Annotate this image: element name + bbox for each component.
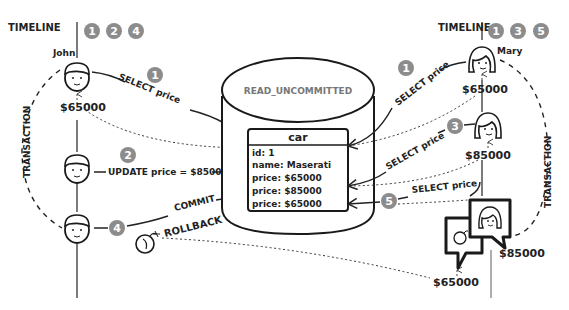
user-face-icon <box>469 47 495 72</box>
john-timeline-badge-2: 2 <box>106 23 122 39</box>
svg-text:5: 5 <box>537 25 545 38</box>
john-timeline-badge-4: 4 <box>128 23 144 39</box>
mary-select-label-3: SELECT price <box>384 130 446 172</box>
mary-value-step-3: $85000 <box>465 149 511 162</box>
user-face-icon <box>65 155 89 183</box>
john-step-badge-1: 1 <box>147 67 163 83</box>
svg-text:4: 4 <box>132 25 140 38</box>
table-row: price: $85000 <box>252 186 322 196</box>
svg-text:1: 1 <box>492 25 500 38</box>
svg-text:3: 3 <box>514 25 522 38</box>
user-face-icon <box>65 215 89 243</box>
john-timeline-label: TIMELINE <box>8 22 61 33</box>
mary-name: Mary <box>497 46 522 56</box>
john-step-badge-2: 2 <box>120 147 136 163</box>
mary-value-step-1: $65000 <box>462 83 508 96</box>
table-row: id: 1 <box>252 148 275 158</box>
svg-text:2: 2 <box>124 149 132 162</box>
svg-text:2: 2 <box>110 25 118 38</box>
mary-step-badge-1: 1 <box>398 60 414 76</box>
actual-committed-value: $65000 <box>433 276 479 289</box>
john-step-badge-4: 4 <box>109 220 125 236</box>
mary-timeline-badge-5: 5 <box>533 23 549 39</box>
bomb-icon <box>136 231 160 253</box>
svg-text:1: 1 <box>88 25 96 38</box>
mary-transaction-label: TRANSACTION <box>543 136 553 208</box>
john-update-label: UPDATE price = $85000 <box>108 167 228 177</box>
mary-value-step-5: $85000 <box>499 247 545 260</box>
john-timeline-badges: 1 2 4 <box>84 23 144 39</box>
mary-timeline-badges: 1 3 5 <box>488 23 549 39</box>
mary-timeline-badge-3: 3 <box>510 23 526 39</box>
svg-text:1: 1 <box>151 69 159 82</box>
john-read-value: $65000 <box>60 101 106 114</box>
svg-text:1: 1 <box>402 62 410 75</box>
table-row: name: Maserati <box>252 160 331 170</box>
mary-step-badge-3: 3 <box>447 118 463 134</box>
mary-timeline-badge-1: 1 <box>488 23 504 39</box>
rollback-dotted-line <box>162 238 430 278</box>
john-name: John <box>52 48 75 58</box>
user-face-icon <box>65 63 89 91</box>
john-transaction-label: TRANSACTION <box>22 106 32 178</box>
john-timeline-badge-1: 1 <box>84 23 100 39</box>
mary-timeline-label: TIMELINE <box>438 22 491 33</box>
svg-text:4: 4 <box>113 222 121 235</box>
john-rollback-label: ROLLBACK <box>163 214 225 239</box>
john-commit-label: COMMIT <box>173 193 217 213</box>
mary-select-label-5: SELECT price <box>411 178 477 195</box>
diagram-canvas: TIMELINE 1 2 4 John $65000 TRANSACTION S… <box>0 0 569 310</box>
table-row: price: $65000 <box>252 173 322 183</box>
svg-text:3: 3 <box>451 120 459 133</box>
table-name: car <box>288 131 308 144</box>
user-face-icon <box>475 113 501 138</box>
isolation-level-label: READ_UNCOMMITTED <box>244 86 352 96</box>
mary-step-badge-5: 5 <box>381 193 397 209</box>
svg-text:5: 5 <box>385 195 393 208</box>
table-row: price: $65000 <box>252 199 322 209</box>
